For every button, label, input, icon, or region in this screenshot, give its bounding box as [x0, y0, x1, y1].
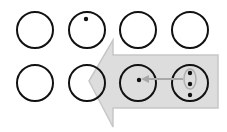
big-left-arrow [89, 40, 218, 127]
diagram-canvas [0, 0, 227, 132]
dot-r2-c3 [137, 78, 141, 82]
dot-r2-c4-3 [188, 93, 192, 97]
dot-r2-c4-2 [188, 82, 192, 86]
dot-r2-c4-1 [188, 71, 192, 75]
circle-r1-c3 [120, 12, 156, 48]
circle-r1-c1 [17, 12, 53, 48]
circle-r2-c1 [17, 65, 53, 101]
dot-r1-c2 [84, 17, 88, 21]
circle-r1-c4 [172, 12, 208, 48]
